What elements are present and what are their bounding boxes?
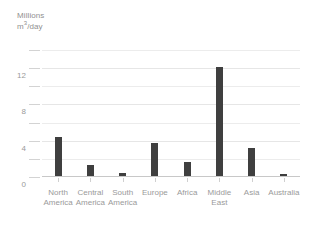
gridline-major	[42, 104, 300, 105]
bar-australia	[280, 174, 287, 176]
gridline-minor	[42, 86, 300, 87]
y-tick-label: 12	[6, 72, 26, 80]
bar-europe	[151, 143, 158, 176]
axis-unit-line-2: m3/day	[17, 22, 44, 33]
plot-area	[42, 50, 300, 177]
x-tick-mark	[58, 178, 59, 182]
x-tick-mark	[90, 178, 91, 182]
x-tick-label-line: North	[43, 188, 72, 198]
gridline-minor	[42, 50, 300, 51]
x-tick-label-europe: Europe	[142, 188, 168, 198]
y-tick-mark	[29, 177, 40, 178]
y-tick-mark	[29, 123, 40, 124]
x-tick-label-line: America	[76, 198, 105, 208]
y-tick-mark	[29, 159, 40, 160]
x-tick-label-line: Middle	[208, 188, 232, 198]
axis-unit-line-1: Millions	[17, 11, 44, 22]
bar-central-america	[87, 165, 94, 176]
gridline-major	[42, 141, 300, 142]
x-tick-label-line: America	[43, 198, 72, 208]
y-tick-label: 0	[6, 181, 26, 189]
x-tick-mark	[252, 178, 253, 182]
bar-chart: Millions m3/day 04812 NorthAmericaCentra…	[0, 0, 316, 232]
x-tick-label-central-america: CentralAmerica	[76, 188, 105, 208]
bar-africa	[184, 162, 191, 177]
x-tick-label-asia: Asia	[244, 188, 260, 198]
x-tick-label-line: South	[108, 188, 137, 198]
x-tick-label-line: East	[208, 198, 232, 208]
y-tick-label: 8	[6, 108, 26, 116]
x-tick-mark	[284, 178, 285, 182]
gridline-minor	[42, 159, 300, 160]
bar-south-america	[119, 173, 126, 176]
x-tick-label-line: Asia	[244, 188, 260, 198]
x-tick-label-line: Africa	[177, 188, 197, 198]
x-tick-label-north-america: NorthAmerica	[43, 188, 72, 208]
y-tick-mark	[29, 141, 40, 142]
y-tick-mark	[29, 104, 40, 105]
x-tick-mark	[187, 178, 188, 182]
axis-unit-title: Millions m3/day	[17, 11, 44, 32]
bar-asia	[248, 148, 255, 176]
x-tick-label-line: Central	[76, 188, 105, 198]
x-tick-label-africa: Africa	[177, 188, 197, 198]
bar-north-america	[55, 137, 62, 176]
y-tick-mark	[29, 68, 40, 69]
x-tick-mark	[219, 178, 220, 182]
x-axis-line	[42, 176, 300, 177]
x-tick-mark	[155, 178, 156, 182]
x-tick-mark	[123, 178, 124, 182]
bar-middle-east	[216, 67, 223, 176]
x-tick-label-south-america: SouthAmerica	[108, 188, 137, 208]
x-tick-label-australia: Australia	[268, 188, 299, 198]
y-tick-label: 4	[6, 145, 26, 153]
x-tick-label-line: America	[108, 198, 137, 208]
y-tick-mark	[29, 86, 40, 87]
x-tick-label-line: Europe	[142, 188, 168, 198]
gridline-minor	[42, 123, 300, 124]
x-tick-label-middle-east: MiddleEast	[208, 188, 232, 208]
superscript-three: 3	[24, 20, 27, 26]
x-tick-label-line: Australia	[268, 188, 299, 198]
gridline-major	[42, 68, 300, 69]
y-tick-mark	[29, 50, 40, 51]
